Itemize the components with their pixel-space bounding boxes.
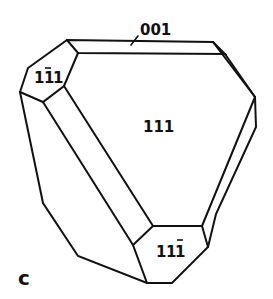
face-11m1-digit-1: 1 bbox=[156, 243, 166, 261]
face-001-label: 001 bbox=[140, 21, 171, 39]
face-11m1-digit-3: 1 bbox=[175, 243, 185, 261]
panel-label: c bbox=[18, 266, 30, 290]
band-right-inner bbox=[202, 97, 255, 226]
face-001-edge-right bbox=[225, 54, 255, 97]
face-111-label: 111 bbox=[143, 118, 174, 136]
face-1m11-label: 1 1 1 bbox=[34, 68, 63, 87]
face-1m11-digit-1: 1 bbox=[34, 69, 44, 87]
face-11m1-label: 1 1 1 bbox=[156, 240, 185, 261]
face-1m11-digit-3: 1 bbox=[53, 69, 63, 87]
crystal-habit-diagram: 001 111 1 1 1 1 1 1 c bbox=[0, 0, 273, 299]
